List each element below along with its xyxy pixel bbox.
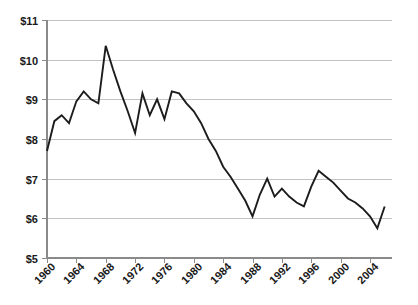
y-tick-labels-group: $11$10$9$8$7$6$5 bbox=[20, 15, 38, 265]
x-tick-label: 1968 bbox=[91, 260, 117, 286]
gridlines-group bbox=[47, 21, 392, 259]
y-tick-label: $8 bbox=[26, 134, 38, 146]
chart-plot-area: $11$10$9$8$7$6$5 19601964196819721976198… bbox=[0, 0, 418, 305]
y-tick-label: $5 bbox=[26, 253, 38, 265]
y-tick-label: $9 bbox=[26, 94, 38, 106]
y-tick-marks bbox=[42, 21, 47, 259]
x-tick-label: 1984 bbox=[208, 260, 234, 286]
x-tick-labels-group: 1960196419681972197619801984198819921996… bbox=[32, 260, 381, 286]
data-series-line bbox=[47, 46, 385, 228]
x-tick-label: 1996 bbox=[296, 260, 322, 286]
x-tick-label: 1976 bbox=[149, 260, 175, 286]
y-tick-label: $7 bbox=[26, 174, 38, 186]
x-tick-label: 1988 bbox=[238, 260, 264, 286]
x-tick-label: 1980 bbox=[179, 260, 205, 286]
x-tick-label: 1992 bbox=[267, 260, 293, 286]
x-tick-label: 1964 bbox=[61, 260, 87, 286]
y-axis bbox=[42, 20, 47, 259]
y-tick-label: $10 bbox=[20, 55, 38, 67]
y-tick-label: $11 bbox=[20, 15, 38, 27]
y-tick-label: $6 bbox=[26, 213, 38, 225]
x-tick-label: 2004 bbox=[355, 260, 381, 286]
x-tick-label: 2000 bbox=[326, 260, 352, 286]
x-tick-label: 1972 bbox=[120, 260, 146, 286]
line-chart-figure: $11$10$9$8$7$6$5 19601964196819721976198… bbox=[0, 0, 418, 305]
